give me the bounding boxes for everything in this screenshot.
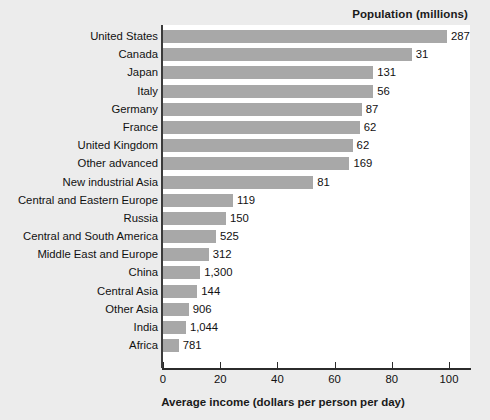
y-axis-line: [161, 25, 163, 368]
bar-value-label: 1,044: [190, 320, 218, 334]
bar-category-label: Central Asia: [97, 284, 158, 298]
bar: [163, 85, 373, 98]
x-axis-tick-label: 80: [386, 373, 399, 385]
bar-value-label: 31: [416, 47, 429, 61]
bar: [163, 303, 189, 316]
bar-row: New industrial Asia81: [0, 174, 490, 192]
bar-category-label: China: [128, 265, 158, 279]
x-axis-tick-label: 40: [271, 373, 284, 385]
x-axis-tick-label: 60: [328, 373, 341, 385]
bar-row: Canada31: [0, 46, 490, 64]
bar-row: Central and South America525: [0, 228, 490, 246]
bar-row: France62: [0, 119, 490, 137]
bar-value-label: 62: [364, 120, 377, 134]
series-title: Population (millions): [352, 8, 468, 20]
bar-row: United Kingdom62: [0, 137, 490, 155]
bar: [163, 339, 179, 352]
bar: [163, 121, 360, 134]
bar-category-label: United States: [90, 29, 158, 43]
bar: [163, 266, 200, 279]
bar-value-label: 287: [451, 29, 470, 43]
bar-row: Africa781: [0, 337, 490, 355]
bar: [163, 103, 362, 116]
x-axis-tick: [449, 362, 450, 369]
bar-row: India1,044: [0, 319, 490, 337]
bar-category-label: Central and Eastern Europe: [18, 193, 158, 207]
bar: [163, 230, 216, 243]
x-axis-tick: [277, 362, 278, 369]
bar: [163, 176, 313, 189]
x-axis-title: Average income (dollars per person per d…: [0, 396, 490, 408]
bar-category-label: Russia: [123, 211, 158, 225]
x-axis-tick: [220, 362, 221, 369]
bar-value-label: 150: [230, 211, 249, 225]
bar-row: Other Asia906: [0, 301, 490, 319]
bar-value-label: 119: [237, 193, 255, 207]
bar-value-label: 312: [213, 247, 232, 261]
bar: [163, 248, 209, 261]
x-axis-tick: [163, 362, 164, 369]
bar-row: Middle East and Europe312: [0, 246, 490, 264]
bar-rows: United States287Canada31Japan131Italy56G…: [0, 28, 490, 355]
bar-category-label: Germany: [112, 102, 158, 116]
bar-category-label: Other Asia: [105, 302, 158, 316]
bar-row: Germany87: [0, 101, 490, 119]
bar: [163, 48, 412, 61]
bar: [163, 157, 349, 170]
bar-value-label: 781: [183, 338, 202, 352]
bar-row: Other advanced169: [0, 155, 490, 173]
bar-category-label: New industrial Asia: [63, 175, 158, 189]
bar-row: Italy56: [0, 83, 490, 101]
x-axis-tick-label: 0: [160, 373, 166, 385]
bar-value-label: 169: [353, 156, 372, 170]
bar-category-label: India: [134, 320, 159, 334]
bar: [163, 66, 373, 79]
bar-row: Central Asia144: [0, 283, 490, 301]
bar-chart-figure: Population (millions) United States287Ca…: [0, 0, 490, 420]
x-axis-tick-label: 100: [440, 373, 459, 385]
bar-value-label: 56: [377, 84, 390, 98]
bar-category-label: Japan: [127, 65, 158, 79]
bar-row: China1,300: [0, 264, 490, 282]
bar-category-label: United Kingdom: [78, 138, 158, 152]
bar-value-label: 1,300: [204, 265, 232, 279]
bar: [163, 321, 186, 334]
bar-value-label: 81: [317, 175, 330, 189]
bar-category-label: Canada: [118, 47, 158, 61]
bar-value-label: 131: [377, 65, 396, 79]
bar: [163, 285, 197, 298]
bar-category-label: France: [123, 120, 158, 134]
bar-value-label: 62: [357, 138, 370, 152]
x-axis-tick-label: 20: [214, 373, 227, 385]
bar-category-label: Africa: [129, 338, 158, 352]
bar: [163, 139, 353, 152]
bar-row: United States287: [0, 28, 490, 46]
bar-category-label: Other advanced: [78, 156, 158, 170]
bar-row: Russia150: [0, 210, 490, 228]
bar-category-label: Middle East and Europe: [37, 247, 158, 261]
bar: [163, 30, 447, 43]
x-axis-tick: [392, 362, 393, 369]
bar-value-label: 144: [201, 284, 220, 298]
bar-value-label: 87: [366, 102, 379, 116]
bar-row: Japan131: [0, 64, 490, 82]
bar-category-label: Italy: [137, 84, 158, 98]
bar-row: Central and Eastern Europe119: [0, 192, 490, 210]
bar: [163, 194, 233, 207]
x-axis-line: [162, 368, 471, 370]
bar: [163, 212, 226, 225]
x-axis-tick: [335, 362, 336, 369]
bar-value-label: 525: [220, 229, 239, 243]
bar-category-label: Central and South America: [23, 229, 158, 243]
bar-value-label: 906: [193, 302, 212, 316]
